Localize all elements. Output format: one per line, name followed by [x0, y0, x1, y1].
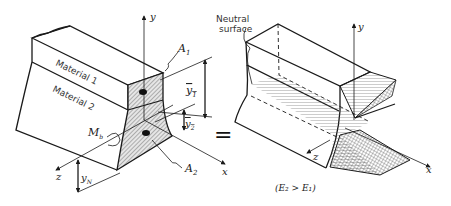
centroid-2: [142, 130, 150, 136]
yN-label: yN: [80, 172, 93, 185]
composite-beam-diagram: Material 1 Material 2 y x z A1 A2 y1 y2 …: [0, 0, 451, 206]
neutral-surface-label-1: Neutral: [216, 14, 249, 24]
equals-sign: =: [214, 122, 232, 147]
y2-bar-label: y2: [184, 118, 195, 131]
Mb-label: Mb: [87, 126, 103, 140]
right-z-axis-arrow: [307, 140, 330, 153]
modulus-condition-label: (E₂ > E₁): [275, 183, 316, 193]
right-y-axis-label: y: [357, 21, 364, 32]
material-2-label: Material 2: [51, 84, 96, 113]
neutral-surface-label-2: surface: [219, 24, 253, 34]
x-axis-label: x: [222, 166, 228, 177]
right-x-axis-label: x: [426, 164, 432, 175]
A2-label: A2: [184, 162, 198, 177]
right-z-axis-label: z: [312, 151, 319, 162]
left-beam: [16, 26, 172, 170]
right-beam: [235, 24, 410, 175]
diagram-svg: Material 1 Material 2 y x z A1 A2 y1 y2 …: [0, 0, 451, 206]
y1-bar-label: y1: [185, 84, 197, 99]
centroid-1: [139, 89, 147, 95]
material-1-label: Material 1: [54, 58, 99, 87]
z-axis-label: z: [55, 171, 62, 182]
moment-arrow-icon: [107, 133, 120, 146]
A1-label: A1: [177, 42, 190, 57]
y-axis-label: y: [149, 11, 156, 22]
